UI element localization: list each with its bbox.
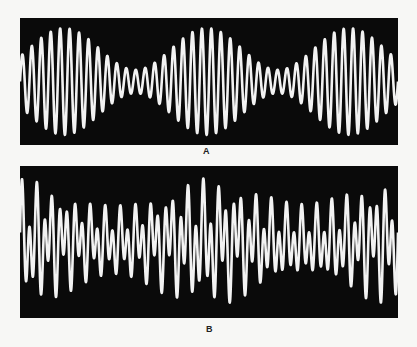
waveform-a-trace bbox=[20, 18, 398, 145]
waveform-panel-b bbox=[20, 166, 398, 318]
panel-label-b: B bbox=[206, 324, 213, 334]
waveform-b-trace bbox=[20, 166, 398, 318]
waveform-panel-a bbox=[20, 18, 398, 145]
panel-label-a: A bbox=[203, 146, 210, 156]
